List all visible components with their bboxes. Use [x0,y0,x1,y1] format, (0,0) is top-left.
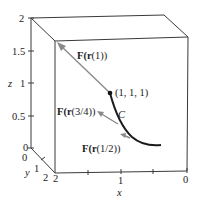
z-tick-0-5: 0.5 [12,111,25,122]
vector-f-r-3-4 [97,111,118,124]
label-f-r-1: F(r(1)) [77,50,108,62]
x-tick-0: 0 [183,174,188,185]
y-tick-2: 2 [43,172,48,183]
curve-label: C [118,109,126,120]
point-label: (1, 1, 1) [115,87,149,99]
y-axis: 0 1 2 y [22,152,48,183]
y-tick-1: 1 [34,163,39,174]
x-tick-2: 2 [53,173,58,184]
z-tick-2: 2 [19,13,24,24]
z-axis-label: z [7,78,12,89]
y-tick-0: 0 [22,152,27,163]
label-f-r-3-4: F(r(3/4)) [57,106,96,118]
label-f-r-1-2: F(r(1/2)) [82,143,121,155]
z-tick-1: 1 [20,78,25,89]
point-1-1-1 [108,91,113,96]
vector-field-figure: 2 1.5 1 0.5 0 z 0 1 2 y 2 1 0 x [0,0,202,206]
y-axis-label: y [24,167,30,178]
x-tick-1: 1 [118,175,123,186]
z-axis: 2 1.5 1 0.5 0 z [7,13,34,153]
z-tick-1-5: 1.5 [12,46,25,57]
x-axis-label: x [116,187,122,198]
